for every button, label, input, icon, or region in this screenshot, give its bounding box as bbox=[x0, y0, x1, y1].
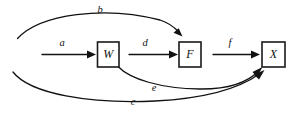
edge-a: a bbox=[42, 37, 96, 59]
node-x-label: X bbox=[269, 47, 278, 61]
edge-d-label: d bbox=[142, 37, 148, 48]
node-f-label: F bbox=[185, 47, 194, 61]
edge-b-path bbox=[18, 13, 180, 39]
edge-c-path bbox=[13, 72, 260, 102]
node-w-label: W bbox=[103, 47, 114, 61]
edge-b: b bbox=[18, 4, 183, 38]
edge-f-arrowhead bbox=[251, 51, 260, 59]
edge-a-label: a bbox=[59, 37, 64, 48]
edge-c: c bbox=[13, 70, 265, 107]
edge-e-label: e bbox=[152, 82, 157, 93]
edge-c-label: c bbox=[131, 96, 136, 107]
edge-d-arrowhead bbox=[169, 51, 178, 59]
edge-b-label: b bbox=[97, 4, 102, 15]
edge-e: e bbox=[118, 67, 263, 94]
edge-b-arrowhead bbox=[174, 28, 183, 36]
node-w[interactable]: W bbox=[98, 42, 120, 67]
path-diagram: b c e a d f bbox=[0, 0, 306, 114]
diagram-canvas: b c e a d f bbox=[0, 0, 306, 114]
edge-d: d bbox=[129, 37, 178, 59]
node-x[interactable]: X bbox=[262, 42, 285, 67]
node-f[interactable]: F bbox=[179, 42, 201, 67]
edge-f-label: f bbox=[229, 37, 234, 48]
edge-f: f bbox=[213, 37, 260, 59]
edge-a-arrowhead bbox=[87, 51, 96, 59]
